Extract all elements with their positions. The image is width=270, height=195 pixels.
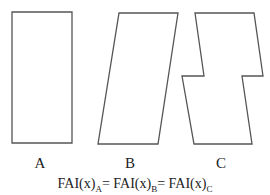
- equals-2: =: [157, 176, 168, 191]
- label-a: A: [35, 155, 46, 172]
- term-c: FAI(x): [169, 176, 207, 191]
- equation: FAI(x)A= FAI(x)B= FAI(x)C: [0, 176, 270, 194]
- label-b: B: [125, 155, 135, 172]
- shape-b-parallelogram: [98, 13, 178, 144]
- term-b: FAI(x): [113, 176, 151, 191]
- shape-a-rectangle: [12, 12, 72, 143]
- equals-1: =: [102, 176, 113, 191]
- sub-c: C: [206, 184, 212, 194]
- label-c: C: [216, 155, 226, 172]
- shape-c-stepped: [182, 13, 263, 144]
- term-a: FAI(x): [58, 176, 96, 191]
